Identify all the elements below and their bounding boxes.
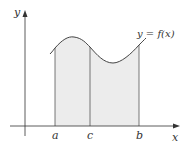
y-axis-arrow-icon (23, 10, 28, 17)
curve-label: y = f(x) (136, 28, 175, 39)
x-axis-arrow-icon (173, 124, 180, 129)
y-axis-label: y (13, 6, 21, 19)
point-label-b: b (136, 129, 143, 142)
shaded-region (55, 37, 139, 126)
point-label-c: c (87, 129, 93, 142)
point-label-a: a (52, 129, 59, 142)
x-axis-label: x (172, 131, 179, 144)
area-under-curve-diagram: y x y = f(x) a c b (0, 0, 186, 144)
